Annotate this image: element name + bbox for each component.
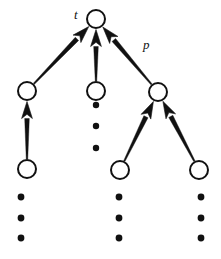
edge-left-to-root-shaft (33, 37, 78, 84)
level3-node-left (18, 160, 36, 178)
graph-canvas (0, 0, 221, 259)
ellipsis-middle-branch (93, 102, 99, 151)
root-label: t (74, 8, 78, 21)
ellipsis-bottom-left (18, 194, 25, 242)
edge-bottomright-to-right (163, 101, 195, 161)
ellipsis-bottom-right-dot-1 (198, 194, 205, 201)
level2-node-left (18, 82, 36, 100)
ellipsis-bottom-right-dot-3 (198, 235, 205, 242)
ellipsis-bottom-left-dot-1 (18, 194, 25, 201)
edge-left-to-root (33, 27, 88, 85)
level3-node-right (190, 161, 208, 179)
ellipsis-middle-branch-dot-1 (93, 102, 99, 108)
edge-bottomright-to-right-shaft (169, 115, 195, 161)
edge-right-to-root (103, 27, 152, 85)
ellipsis-bottom-middle-dot-2 (116, 215, 123, 222)
ellipsis-middle-branch-dot-3 (93, 145, 99, 151)
level2-node-right (149, 83, 167, 101)
edge-bottomleft-to-left-arrowhead (22, 102, 33, 119)
edge-middle-to-root-shaft (94, 47, 99, 82)
level3-node-middle (111, 161, 129, 179)
edge-bottommid-to-right-arrowhead (141, 101, 153, 119)
ellipsis-middle-branch-dot-2 (93, 123, 99, 129)
ellipsis-bottom-middle (116, 194, 123, 242)
tree-diagram: t p (0, 0, 221, 259)
edge-bottomright-to-right-arrowhead (163, 101, 176, 119)
ellipsis-bottom-left-dot-2 (18, 215, 25, 222)
edge-middle-to-root-arrowhead (91, 30, 102, 47)
level2-node-middle (87, 82, 105, 100)
root-node (87, 10, 105, 28)
ellipsis-bottom-right-dot-2 (198, 215, 205, 222)
edge-label-p: p (143, 38, 150, 51)
edge-middle-to-root (91, 30, 102, 82)
ellipsis-bottom-middle-dot-1 (116, 194, 123, 201)
edge-bottommid-to-right-shaft (124, 116, 148, 162)
edge-bottommid-to-right (124, 101, 154, 161)
ellipsis-bottom-middle-dot-3 (116, 235, 123, 242)
ellipsis-bottom-left-dot-3 (18, 235, 25, 242)
edge-bottomleft-to-left-shaft (25, 119, 30, 160)
edge-bottomleft-to-left (22, 102, 33, 160)
edges-layer (22, 27, 195, 162)
ellipsis-bottom-right (198, 194, 205, 242)
